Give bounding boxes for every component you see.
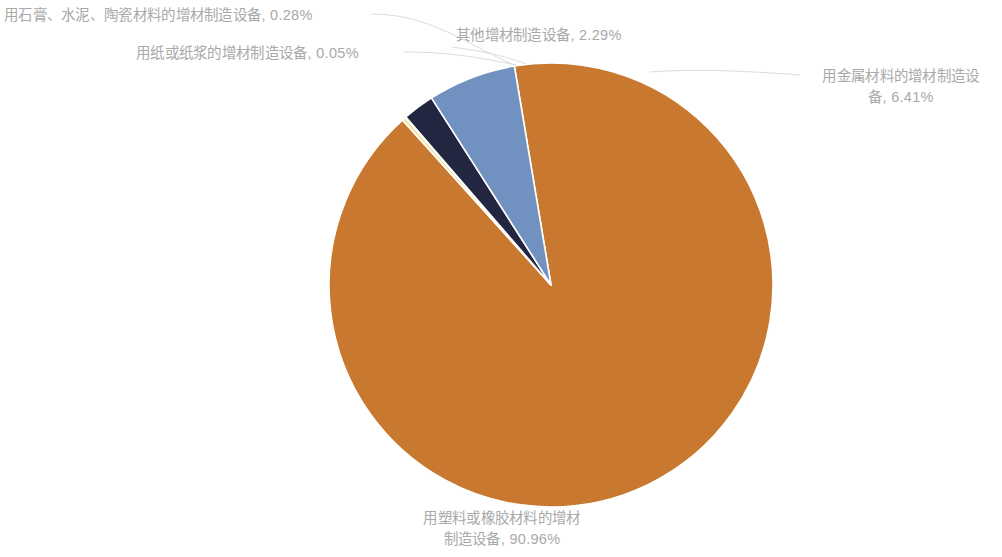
slice-label-plastic-line2: 制造设备, 90.96%	[386, 529, 618, 550]
pie-slices	[329, 63, 773, 507]
slice-label-metal-line1: 用金属材料的增材制造设	[806, 66, 996, 87]
slice-label-paper: 用纸或纸浆的增材制造设备, 0.05%	[136, 43, 359, 64]
pie-chart: 用石膏、水泥、陶瓷材料的增材制造设备, 0.28% 用纸或纸浆的增材制造设备, …	[0, 0, 1002, 557]
slice-label-plastic: 用塑料或橡胶材料的增材 制造设备, 90.96%	[386, 508, 618, 550]
slice-label-metal: 用金属材料的增材制造设 备, 6.41%	[806, 66, 996, 108]
leader-line-metal	[650, 70, 800, 75]
slice-label-other: 其他增材制造设备, 2.29%	[456, 25, 622, 46]
slice-label-metal-line2: 备, 6.41%	[806, 87, 996, 108]
slice-label-gypsum: 用石膏、水泥、陶瓷材料的增材制造设备, 0.28%	[4, 5, 313, 26]
slice-label-plastic-line1: 用塑料或橡胶材料的增材	[386, 508, 618, 529]
